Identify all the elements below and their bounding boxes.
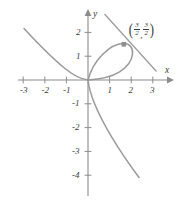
x-tick-label-3: 3 <box>150 86 155 95</box>
folium-loop-branch <box>88 43 133 80</box>
x-axis-label: x <box>165 66 169 76</box>
y-tick-label--2: -2 <box>72 123 80 132</box>
label-y-denominator: 2 <box>143 29 149 37</box>
y-tick-label-2: 2 <box>76 28 81 37</box>
label-x-numerator: 3 <box>134 22 140 29</box>
y-tick-label--4: -4 <box>72 171 80 180</box>
tangency-point-marker <box>122 42 127 47</box>
folium-of-descartes-figure: -3 -2 -1 1 2 3 2 1 -1 -2 -3 -4 y x ( 3 2… <box>0 0 178 202</box>
y-tick-label--3: -3 <box>72 147 80 156</box>
x-tick-label-1: 1 <box>108 86 113 95</box>
x-tick-label--3: -3 <box>20 86 28 95</box>
label-y-fraction: 3 2 <box>143 22 149 38</box>
tangency-point-label: ( 3 2 , 3 2 ) <box>128 21 155 38</box>
label-open-paren: ( <box>129 21 133 38</box>
label-close-paren: ) <box>150 21 154 38</box>
y-axis-arrowhead <box>85 9 92 16</box>
label-comma: , <box>140 31 142 40</box>
x-tick-label-2: 2 <box>129 86 134 95</box>
x-tick-label--2: -2 <box>42 86 50 95</box>
label-x-denominator: 2 <box>134 29 140 37</box>
label-y-numerator: 3 <box>143 22 149 29</box>
label-x-fraction: 3 2 <box>134 22 140 38</box>
x-axis-arrowhead <box>167 77 174 84</box>
x-tick-label--1: -1 <box>63 86 71 95</box>
y-tick-label-1: 1 <box>76 52 81 61</box>
y-tick-label--1: -1 <box>72 99 80 108</box>
y-axis-label: y <box>93 10 97 20</box>
